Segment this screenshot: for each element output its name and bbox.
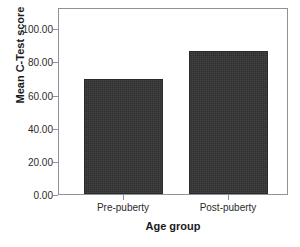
x-tick-label-post-puberty: Post-puberty <box>178 202 278 214</box>
y-axis-tick-labels: 100.00 80.00 60.00 40.00 20.00 0.00 <box>8 0 53 247</box>
y-tick-label-100: 100.00 <box>9 25 53 35</box>
y-tick-label-80: 80.00 <box>9 58 53 68</box>
x-axis-title: Age group <box>58 220 288 233</box>
y-tick-mark-0 <box>53 195 58 196</box>
y-tick-label-40: 40.00 <box>9 125 53 135</box>
bar-post-puberty <box>189 51 268 194</box>
y-tick-label-0: 0.00 <box>9 191 53 201</box>
bar-pre-puberty <box>84 79 163 194</box>
y-tick-label-60: 60.00 <box>9 92 53 102</box>
plot-area <box>58 8 288 195</box>
y-tick-label-20: 20.00 <box>9 158 53 168</box>
x-tick-label-pre-puberty: Pre-puberty <box>73 202 173 214</box>
x-tick-mark-post-puberty <box>228 195 229 200</box>
bar-chart: Mean C-Test score 100.00 80.00 60.00 40.… <box>0 0 300 247</box>
x-tick-mark-pre-puberty <box>123 195 124 200</box>
